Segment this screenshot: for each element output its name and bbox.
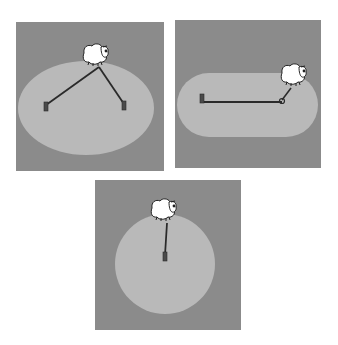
post-icon: [200, 94, 204, 103]
post-icon: [44, 102, 48, 111]
grazing-area: [18, 61, 154, 155]
grazing-area: [115, 214, 215, 314]
panel-single-post-circle: [95, 180, 241, 330]
panel-rail-stadium: [175, 20, 321, 168]
post-icon: [163, 252, 167, 261]
post-icon: [122, 101, 126, 110]
panel-two-posts-ellipse: [16, 22, 164, 171]
